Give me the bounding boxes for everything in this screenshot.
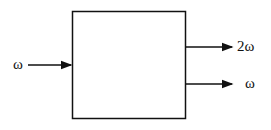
input-label: ω [13,57,23,72]
system-block [73,12,186,119]
block-diagram [0,0,271,130]
output-label-1: 2ω [237,39,254,54]
output-label-2: ω [245,76,255,91]
